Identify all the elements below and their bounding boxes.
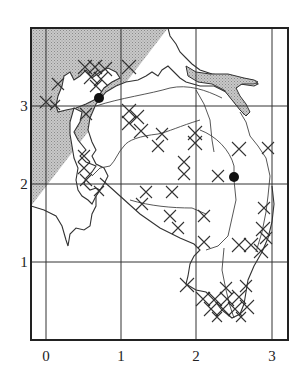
- y-tick-2: 2: [20, 176, 28, 192]
- y-tick-1: 1: [20, 254, 28, 270]
- y-tick-3: 3: [20, 98, 28, 114]
- site-marker-2: [229, 172, 239, 182]
- site-marker-1: [94, 93, 104, 103]
- x-tick-0: 0: [42, 348, 50, 364]
- x-tick-1: 1: [117, 348, 125, 364]
- x-tick-2: 2: [192, 348, 200, 364]
- x-tick-3: 3: [268, 348, 276, 364]
- map: 0 1 2 3 1 2 3: [0, 0, 302, 382]
